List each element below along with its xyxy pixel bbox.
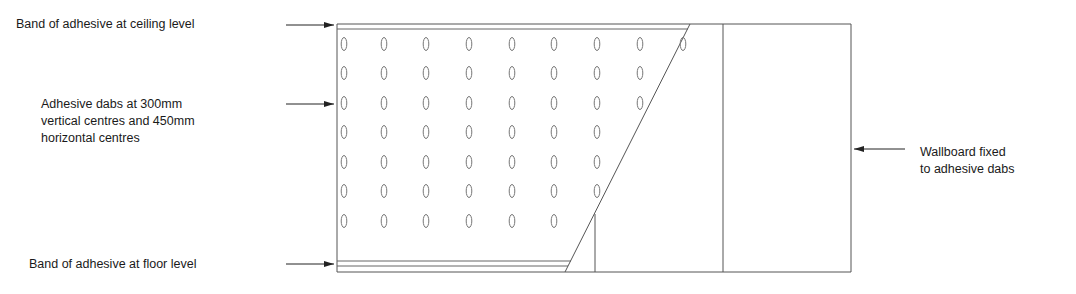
adhesive-dab [423,67,429,80]
adhesive-dab [466,97,472,110]
adhesive-dab [381,126,387,139]
wall-outline [337,24,851,272]
adhesive-dab [423,215,429,228]
dabs-label-line2: vertical centres and 450mm [41,114,195,129]
adhesive-dab [381,215,387,228]
floor-band-label: Band of adhesive at floor level [29,257,196,272]
adhesive-dab [637,67,643,80]
adhesive-dab [509,215,515,228]
adhesive-dab [594,38,600,51]
adhesive-dab [551,126,557,139]
wallboard-label-line2: to adhesive dabs [920,162,1015,177]
adhesive-dab [594,185,600,198]
adhesive-dab [381,156,387,169]
adhesive-dab [680,38,686,51]
adhesive-dab [341,215,347,228]
adhesive-dab [466,156,472,169]
adhesive-dab [341,38,347,51]
adhesive-dab [341,185,347,198]
adhesive-dab [551,185,557,198]
dabs-label-line1: Adhesive dabs at 300mm [41,97,182,112]
adhesive-dab [594,67,600,80]
adhesive-dab [637,97,643,110]
dabs-label-line3: horizontal centres [41,131,140,146]
adhesive-dab [551,97,557,110]
adhesive-dab [551,215,557,228]
adhesive-dab [509,185,515,198]
adhesive-dab [466,185,472,198]
adhesive-dab [381,67,387,80]
wallboard-edge-diagonal [565,24,690,272]
adhesive-dab [381,38,387,51]
adhesive-dab [551,156,557,169]
adhesive-dab [509,97,515,110]
adhesive-dab [381,97,387,110]
adhesive-dab [381,185,387,198]
wallboard-label-line1: Wallboard fixed [920,145,1006,160]
adhesive-dab [466,126,472,139]
adhesive-dab [341,67,347,80]
adhesive-dab [341,156,347,169]
adhesive-dab [551,38,557,51]
adhesive-dab [509,156,515,169]
adhesive-dab [423,97,429,110]
adhesive-dab [594,156,600,169]
adhesive-dab [551,67,557,80]
adhesive-dab [341,126,347,139]
adhesive-dab [509,38,515,51]
adhesive-dab [466,38,472,51]
adhesive-dab [341,97,347,110]
adhesive-dab [594,126,600,139]
adhesive-dab [423,156,429,169]
adhesive-dab [509,67,515,80]
adhesive-dab [509,126,515,139]
ceiling-band-label: Band of adhesive at ceiling level [16,17,195,32]
adhesive-dab [423,126,429,139]
floor-adhesive-band [337,261,571,266]
adhesive-dab [423,38,429,51]
adhesive-dab [466,67,472,80]
adhesive-dab [423,185,429,198]
adhesive-dab [466,215,472,228]
adhesive-dab [594,97,600,110]
adhesive-dabs [341,38,686,228]
wall-drawing [0,0,1076,294]
adhesive-dab [637,38,643,51]
